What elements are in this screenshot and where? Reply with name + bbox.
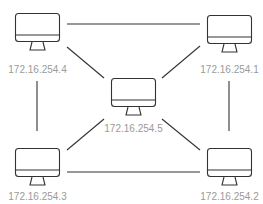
edge-n2-n5 (162, 119, 200, 150)
node-172-16-254-5[interactable]: 172.16.254.5 (104, 79, 163, 135)
desktop-monitor-icon (16, 14, 60, 51)
node-label: 172.16.254.5 (104, 123, 163, 134)
network-diagram: 172.16.254.4 172.16.254.1 172.16.254.5 1… (0, 0, 263, 204)
edge-n3-n5 (67, 119, 104, 150)
node-label: 172.16.254.2 (200, 191, 259, 202)
desktop-monitor-icon (208, 16, 252, 53)
node-172-16-254-1[interactable]: 172.16.254.1 (200, 16, 259, 76)
edge-n4-n5 (67, 47, 104, 78)
node-172-16-254-3[interactable]: 172.16.254.3 (8, 149, 67, 203)
node-label: 172.16.254.1 (200, 64, 259, 75)
desktop-monitor-icon (208, 149, 252, 186)
node-172-16-254-2[interactable]: 172.16.254.2 (200, 149, 259, 203)
edge-n1-n5 (162, 46, 200, 78)
node-label: 172.16.254.4 (8, 64, 67, 75)
node-label: 172.16.254.3 (8, 191, 67, 202)
node-172-16-254-4[interactable]: 172.16.254.4 (8, 14, 67, 76)
desktop-monitor-icon (112, 79, 156, 116)
desktop-monitor-icon (16, 149, 60, 186)
